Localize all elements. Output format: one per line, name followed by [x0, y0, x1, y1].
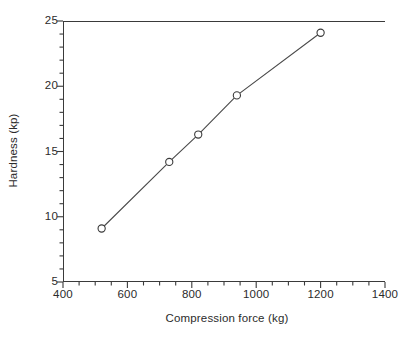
x-axis-tick-label: 800 — [168, 289, 216, 301]
data-point-marker — [195, 131, 202, 138]
x-axis-tick-label: 1000 — [232, 289, 280, 301]
x-axis-tick-label: 1200 — [297, 289, 345, 301]
data-point-marker — [166, 158, 173, 165]
data-point-marker — [317, 29, 324, 36]
x-axis-tick-label: 600 — [103, 289, 151, 301]
data-point-marker — [233, 92, 240, 99]
x-axis-minor-ticks — [79, 282, 369, 286]
x-axis-tick-label: 400 — [39, 289, 87, 301]
data-point-marker — [98, 225, 105, 232]
series-markers — [98, 29, 324, 232]
x-axis-tick-label: 1400 — [361, 289, 408, 301]
chart-figure: Hardness (kp) 510152025 4006008001000120… — [0, 0, 408, 339]
series-line — [102, 33, 321, 229]
x-axis-tick-labels: 400600800100012001400 — [0, 289, 408, 305]
x-axis-label: Compression force (kg) — [0, 312, 408, 325]
